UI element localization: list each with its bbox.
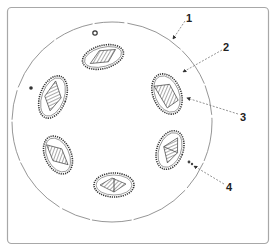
colony-bottom [94,173,134,197]
label-3: 3 [240,111,246,123]
spore-dot-left [29,86,33,90]
label-4: 4 [226,181,233,193]
label-2: 2 [223,41,229,53]
spore-dot-top [93,31,97,35]
petri-dish-diagram: 1 2 3 4 [0,0,279,252]
figure-frame [8,8,269,244]
label-1: 1 [186,12,192,24]
